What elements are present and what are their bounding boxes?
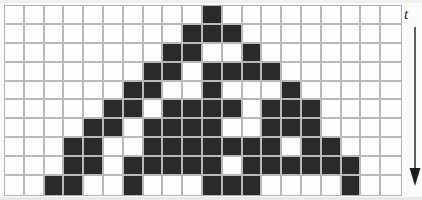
automaton-cell: [223, 44, 243, 63]
automaton-cell: [203, 176, 223, 195]
automaton-cell: [262, 82, 282, 101]
automaton-cell: [84, 82, 104, 101]
automaton-cell: [302, 119, 322, 138]
automaton-cell: [282, 6, 302, 25]
automaton-cell: [342, 176, 362, 195]
automaton-cell: [144, 44, 164, 63]
automaton-cell: [124, 119, 144, 138]
automaton-cell: [282, 138, 302, 157]
automaton-cell: [144, 119, 164, 138]
automaton-cell: [243, 44, 263, 63]
automaton-cell: [302, 6, 322, 25]
automaton-cell: [223, 119, 243, 138]
automaton-cell: [302, 100, 322, 119]
automaton-cell: [144, 25, 164, 44]
automaton-cell: [361, 25, 381, 44]
automaton-cell: [203, 100, 223, 119]
automaton-figure: t: [0, 0, 422, 200]
time-axis-label: t: [404, 7, 408, 22]
automaton-cell: [104, 176, 124, 195]
automaton-cell: [262, 63, 282, 82]
automaton-cell: [262, 176, 282, 195]
automaton-cell: [45, 157, 65, 176]
automaton-cell: [282, 100, 302, 119]
automaton-cell: [5, 44, 25, 63]
automaton-cell: [104, 25, 124, 44]
automaton-cell: [322, 44, 342, 63]
automaton-cell: [243, 25, 263, 44]
automaton-cell: [183, 100, 203, 119]
automaton-cell: [243, 6, 263, 25]
automaton-cell: [342, 63, 362, 82]
automaton-cell: [223, 176, 243, 195]
automaton-cell: [223, 157, 243, 176]
automaton-cell: [144, 82, 164, 101]
automaton-cell: [302, 44, 322, 63]
automaton-cell: [5, 25, 25, 44]
automaton-cell: [282, 157, 302, 176]
automaton-cell: [203, 157, 223, 176]
automaton-cell: [262, 6, 282, 25]
automaton-cell: [183, 44, 203, 63]
automaton-cell: [243, 138, 263, 157]
automaton-cell: [144, 100, 164, 119]
automaton-cell: [322, 176, 342, 195]
automaton-cell: [163, 138, 183, 157]
automaton-cell: [322, 25, 342, 44]
automaton-cell: [361, 138, 381, 157]
automaton-cell: [163, 25, 183, 44]
automaton-cell: [302, 157, 322, 176]
automaton-cell: [64, 100, 84, 119]
automaton-cell: [243, 82, 263, 101]
automaton-cell: [64, 63, 84, 82]
automaton-cell: [342, 157, 362, 176]
automaton-cell: [322, 6, 342, 25]
automaton-cell: [64, 176, 84, 195]
automaton-cell: [302, 63, 322, 82]
automaton-cell: [203, 119, 223, 138]
automaton-cell: [183, 138, 203, 157]
automaton-grid: [4, 5, 402, 196]
automaton-cell: [5, 176, 25, 195]
automaton-cell: [361, 176, 381, 195]
automaton-cell: [342, 138, 362, 157]
automaton-cell: [322, 138, 342, 157]
automaton-cell: [361, 157, 381, 176]
automaton-cell: [64, 138, 84, 157]
automaton-cell: [203, 44, 223, 63]
automaton-cell: [361, 119, 381, 138]
automaton-cell: [183, 25, 203, 44]
automaton-cell: [124, 6, 144, 25]
automaton-cell: [104, 157, 124, 176]
automaton-cell: [84, 44, 104, 63]
automaton-cell: [104, 82, 124, 101]
automaton-cell: [84, 100, 104, 119]
automaton-cell: [342, 82, 362, 101]
automaton-cell: [342, 25, 362, 44]
automaton-cell: [84, 119, 104, 138]
automaton-cell: [302, 82, 322, 101]
automaton-cell: [25, 82, 45, 101]
automaton-cell: [144, 176, 164, 195]
automaton-cell: [243, 100, 263, 119]
automaton-cell: [342, 44, 362, 63]
automaton-cell: [45, 100, 65, 119]
automaton-cell: [104, 138, 124, 157]
automaton-cell: [64, 25, 84, 44]
automaton-grid-container: [4, 5, 402, 196]
automaton-cell: [243, 157, 263, 176]
automaton-cell: [203, 82, 223, 101]
automaton-cell: [262, 157, 282, 176]
automaton-cell: [282, 119, 302, 138]
automaton-cell: [45, 44, 65, 63]
automaton-cell: [163, 157, 183, 176]
automaton-cell: [124, 138, 144, 157]
automaton-cell: [361, 6, 381, 25]
automaton-cell: [223, 6, 243, 25]
automaton-cell: [84, 138, 104, 157]
automaton-cell: [104, 63, 124, 82]
automaton-cell: [25, 6, 45, 25]
automaton-cell: [262, 44, 282, 63]
automaton-cell: [64, 119, 84, 138]
automaton-cell: [223, 25, 243, 44]
